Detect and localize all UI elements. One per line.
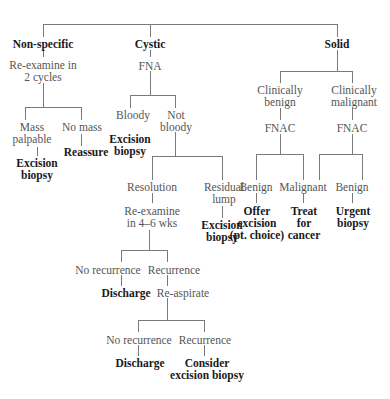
node-urgent-biopsy: Urgent biopsy (336, 205, 371, 229)
node-solid: Solid (325, 38, 350, 50)
node-malignant: Malignant (279, 181, 326, 193)
node-treat-for-cancer: Treat for cancer (288, 205, 321, 241)
node-benign-2: Benign (335, 181, 368, 193)
node-resolution: Resolution (127, 181, 177, 193)
node-excision-biopsy-1: Excision biopsy (16, 157, 58, 181)
node-clinically-malignant: Clinically malignant (331, 84, 377, 108)
node-mass-palpable: Mass palpable (13, 121, 52, 145)
node-consider-excision-biopsy: Consider excision biopsy (170, 357, 244, 381)
node-reexamine-2-cycles: Re-examine in 2 cycles (9, 59, 76, 83)
node-recurrence-1: Recurrence (148, 264, 200, 276)
node-discharge-1: Discharge (101, 287, 150, 299)
node-no-recurrence-1: No recurrence (75, 264, 140, 276)
node-fnac-2: FNAC (337, 122, 368, 134)
node-cystic: Cystic (135, 38, 166, 50)
node-not-bloody: Not bloody (160, 109, 192, 133)
node-fnac-1: FNAC (265, 122, 296, 134)
node-non-specific: Non-specific (13, 38, 74, 50)
node-recurrence-2: Recurrence (179, 334, 231, 346)
node-reassure: Reassure (64, 146, 109, 158)
node-reexamine-4-6-wks: Re-examine in 4–6 wks (124, 205, 180, 229)
node-bloody: Bloody (116, 109, 150, 121)
node-residual-lump: Residual lump (204, 181, 244, 205)
node-reaspirate: Re-aspirate (157, 287, 209, 299)
node-no-mass: No mass (62, 121, 102, 133)
node-no-recurrence-2: No recurrence (106, 334, 171, 346)
node-offer-excision: Offer excision (pt. choice) (230, 205, 284, 241)
node-fna: FNA (138, 60, 161, 72)
flowchart: Non-specific Cystic Solid Re-examine in … (0, 0, 390, 399)
node-discharge-2: Discharge (115, 357, 164, 369)
node-excision-biopsy-2: Excision biopsy (109, 133, 151, 157)
node-benign-1: Benign (239, 181, 272, 193)
node-clinically-benign: Clinically benign (257, 84, 302, 108)
